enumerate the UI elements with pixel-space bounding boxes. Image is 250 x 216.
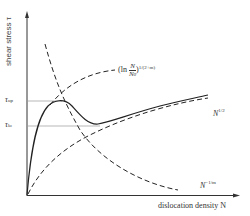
log-fraction: NN0 — [129, 63, 136, 78]
upper-sub: up — [8, 98, 13, 103]
y-axis — [25, 11, 29, 196]
total-stress-curve — [27, 95, 208, 195]
lower-yield-label: τlo — [5, 120, 12, 129]
sqrt-law-label: N1/2 — [213, 108, 225, 118]
fraction-den: N0 — [129, 71, 136, 78]
sqrt-law-curve — [28, 98, 208, 194]
log-prefix: (ln — [118, 65, 129, 74]
lower-sub: lo — [8, 123, 12, 128]
log-law-label: (ln NN0)1/(2+m) — [118, 63, 155, 78]
power-law-curve — [45, 44, 178, 190]
power-law-label: N−1/m — [200, 180, 216, 190]
x-axis-label: dislocation density N — [158, 201, 226, 210]
sqrt-exp: 1/2 — [218, 108, 224, 113]
log-law-curve — [50, 70, 115, 105]
log-exp: 1/(2+m) — [139, 65, 155, 70]
x-axis — [27, 194, 240, 198]
power-exp: −1/m — [205, 180, 216, 185]
upper-yield-label: τup — [5, 95, 13, 104]
den-sub: 0 — [134, 72, 137, 77]
y-axis-label: shear stress τ — [4, 17, 13, 66]
